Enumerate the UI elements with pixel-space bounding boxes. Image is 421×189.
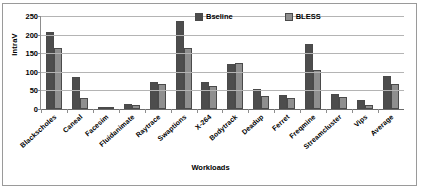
y-axis-tick-label: 200 [25,30,38,39]
x-axis-tick-label: X-264 [194,113,213,131]
x-axis-tick-labels: BlackscholesCanealFacesimFluidanimateRay… [40,112,403,164]
plot-area: 050100150200250 [40,16,404,110]
x-tick-label-wrap: Ferret [273,112,299,164]
y-axis-tick-label: 250 [25,12,38,21]
y-axis-tick-mark [38,16,41,17]
x-tick-label-wrap: Average [377,112,403,164]
y-axis-tick-label: 150 [25,49,38,58]
x-axis-tick-label: Ferret [271,113,291,132]
legend-label: BLESS [296,12,321,21]
bar-average-bseline [383,76,391,109]
legend-label: Bseline [206,12,233,21]
x-tick-label-wrap: Swaptions [170,112,196,164]
bar-vips-bseline [357,100,365,109]
grid-line [41,35,404,36]
bar-group [248,16,274,109]
y-axis-tick-mark [38,53,41,54]
bar-facesim-bseline [98,107,106,109]
bar-deadup-bless [261,96,269,109]
bar-group [171,16,197,109]
y-axis-tick-label: 100 [25,67,38,76]
bar-group [145,16,171,109]
legend-swatch-icon [285,13,293,21]
x-axis-title: Workloads [0,163,421,172]
grid-line [41,53,404,54]
bar-caneal-bseline [72,77,80,109]
bar-group [378,16,404,109]
bar-x-264-bless [209,86,217,109]
bar-ferret-bseline [279,95,287,109]
x-tick-label-wrap: Caneal [66,112,92,164]
x-tick-label-wrap: Blackscholes [40,112,66,164]
bar-group [67,16,93,109]
bar-bodytrack-bless [235,63,243,110]
bar-raytrace-bless [158,84,166,109]
x-axis-tick-label: Vips [353,113,369,128]
bar-group [326,16,352,109]
bar-streamcluster-bless [339,97,347,109]
bar-group [222,16,248,109]
y-axis-title: IntraV [10,15,19,75]
x-tick-label-wrap: Vips [351,112,377,164]
bar-blackscholes-bseline [46,32,54,109]
x-tick-label-wrap: Fluidanimate [118,112,144,164]
bar-raytrace-bseline [150,82,158,109]
y-axis-tick-mark [38,90,41,91]
chart-legend: BselineBLESS [195,12,321,21]
bar-blackscholes-bless [54,48,62,109]
grid-line [41,72,404,73]
bar-facesim-bless [106,107,114,109]
bar-fluidanimate-bless [132,105,140,109]
bar-group [274,16,300,109]
bar-chart: IntraV 050100150200250 BlackscholesCanea… [0,0,421,189]
y-axis-tick-label: 50 [30,86,38,95]
bar-group [300,16,326,109]
bar-group [352,16,378,109]
x-tick-label-wrap: Deadup [247,112,273,164]
bar-average-bless [391,84,399,109]
x-tick-label-wrap: Streamcluster [325,112,351,164]
legend-swatch-icon [195,13,203,21]
y-axis-tick-mark [38,72,41,73]
bar-x-264-bseline [201,82,209,109]
bar-fluidanimate-bseline [124,104,132,109]
bar-group [197,16,223,109]
x-tick-label-wrap: Bodytrack [221,112,247,164]
bar-group [93,16,119,109]
bar-vips-bless [365,105,373,109]
grid-line [41,90,404,91]
bar-ferret-bless [287,98,295,109]
bar-series-container [41,16,404,109]
bar-streamcluster-bseline [331,94,339,109]
bar-swaptions-bless [184,48,192,109]
bar-deadup-bseline [253,89,261,109]
bar-bodytrack-bseline [227,64,235,109]
bar-group [119,16,145,109]
y-axis-tick-mark [38,35,41,36]
legend-item-bseline: Bseline [195,12,233,21]
y-axis-tick-mark [38,109,41,110]
bar-group [41,16,67,109]
legend-item-bless: BLESS [285,12,321,21]
bar-caneal-bless [80,98,88,109]
